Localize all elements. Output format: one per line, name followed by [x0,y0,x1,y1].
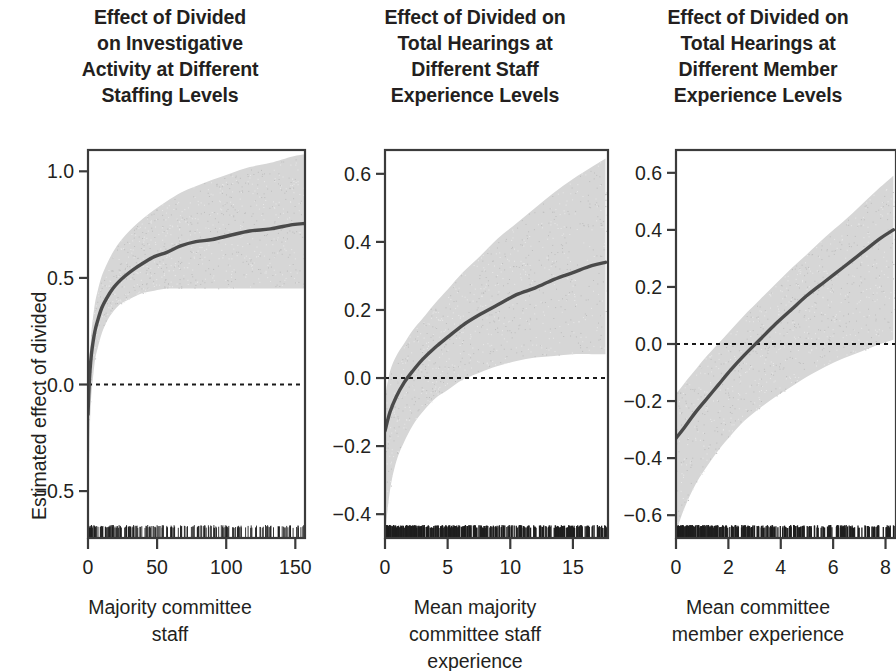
rug-marks [676,525,894,537]
x-tick-label: 0 [83,556,94,578]
panel-staff-experience: Effect of Divided on Total Hearings at D… [330,0,620,671]
y-tick-label: −0.6 [624,504,663,526]
y-tick-label: −0.5 [36,480,75,502]
panel-2-xlabel-line-3: experience [330,648,620,671]
y-tick-label: 0.0 [635,333,662,355]
y-tick-label: −0.4 [624,447,663,469]
x-axis-ticks: 050100150 [83,538,312,578]
panel-2-x-axis-label: Mean majority committee staff experience [330,594,620,671]
panel-2-xlabel-line-2: committee staff [330,621,620,648]
confidence-band [88,154,305,533]
y-tick-label: −0.4 [333,503,372,525]
y-tick-label: 0.0 [344,367,371,389]
x-tick-label: 2 [723,556,734,578]
y-tick-label: −0.2 [333,435,372,457]
panel-investigative-activity: Effect of Divided on Investigative Activ… [0,0,340,671]
y-tick-label: 0.5 [47,267,74,289]
x-tick-label: 6 [828,556,839,578]
x-tick-label: 50 [146,556,168,578]
panel-3-xlabel-line-1: Mean committee [620,594,896,621]
panel-1-plot: 1.00.50.0−0.5050100150 [0,0,340,671]
panel-1-xlabel-line-2: staff [0,621,340,648]
x-tick-label: 0 [380,556,391,578]
x-tick-label: 0 [671,556,682,578]
y-tick-label: 0.4 [344,231,371,253]
confidence-band [385,159,605,535]
y-tick-label: 0.2 [344,299,371,321]
confidence-band [676,176,893,533]
x-axis-ticks: 02468 [671,538,891,578]
y-tick-label: 1.0 [47,160,74,182]
x-tick-label: 8 [880,556,891,578]
y-axis-ticks: 0.60.40.20.0−0.2−0.4 [333,163,386,525]
figure-panel-group: Estimated effect of divided Effect of Di… [0,0,896,671]
x-tick-label: 100 [210,556,243,578]
panel-1-x-axis-label: Majority committee staff [0,594,340,648]
rug-marks [88,525,304,537]
y-tick-label: −0.2 [624,390,663,412]
rug-marks [385,525,608,537]
x-tick-label: 10 [499,556,521,578]
y-tick-label: 0.6 [635,162,662,184]
panel-3-x-axis-label: Mean committee member experience [620,594,896,648]
y-axis-ticks: 0.60.40.20.0−0.2−0.4−0.6 [624,162,677,526]
x-tick-label: 15 [562,556,584,578]
x-tick-label: 150 [279,556,312,578]
y-tick-label: 0.6 [344,163,371,185]
y-tick-label: 0.0 [47,374,74,396]
panel-3-plot: 0.60.40.20.0−0.2−0.4−0.602468 [620,0,896,671]
x-tick-label: 5 [442,556,453,578]
panel-3-xlabel-line-2: member experience [620,621,896,648]
y-axis-ticks: 1.00.50.0−0.5 [36,160,89,502]
x-tick-label: 4 [775,556,786,578]
x-axis-ticks: 051015 [380,538,584,578]
panel-2-xlabel-line-1: Mean majority [330,594,620,621]
panel-member-experience: Effect of Divided on Total Hearings at D… [620,0,896,671]
y-tick-label: 0.2 [635,276,662,298]
panel-2-plot: 0.60.40.20.0−0.2−0.4051015 [330,0,620,671]
y-tick-label: 0.4 [635,219,662,241]
panel-1-xlabel-line-1: Majority committee [0,594,340,621]
